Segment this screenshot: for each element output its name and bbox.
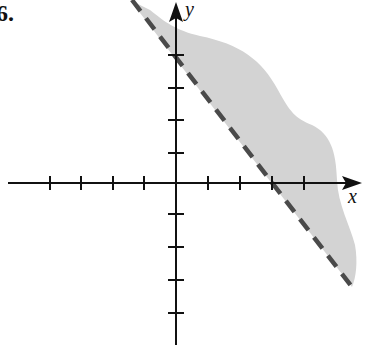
- x-axis-label: x: [347, 185, 357, 207]
- y-axis-label: y: [183, 0, 194, 21]
- inequality-graph: x y: [0, 0, 370, 359]
